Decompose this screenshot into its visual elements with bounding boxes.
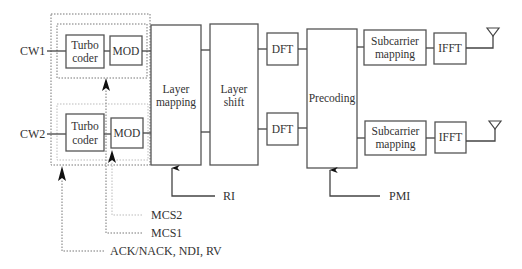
layer-shift-line2: shift	[224, 96, 245, 108]
subcarrier-mapping-1-line2: mapping	[375, 48, 415, 61]
ri-arrow	[172, 168, 215, 196]
pmi-arrow	[330, 170, 380, 196]
turbo-coder-2-line1: Turbo	[71, 120, 99, 132]
turbo-coder-2-line2: coder	[72, 134, 98, 146]
antenna-icon	[466, 28, 499, 48]
ifft-1-label: IFFT	[438, 42, 462, 54]
dft-1-label: DFT	[272, 43, 294, 55]
arrow-up-icon	[102, 78, 110, 91]
turbo-coder-1-line1: Turbo	[71, 39, 99, 51]
layer-mapping-line1: Layer	[163, 83, 190, 96]
cw2-label: CW2	[20, 127, 45, 141]
transmitter-block-diagram: CW1 CW2 Turbo coder MOD Turbo coder MOD …	[0, 0, 522, 269]
mcs2-label: MCS2	[151, 208, 182, 222]
pmi-label: PMI	[389, 189, 410, 203]
subcarrier-mapping-2-line2: mapping	[375, 138, 415, 151]
mod-1-label: MOD	[113, 45, 140, 57]
mcs1-label: MCS1	[151, 226, 182, 240]
subcarrier-mapping-2-line1: Subcarrier	[372, 125, 420, 137]
layer-mapping-line2: mapping	[156, 96, 196, 109]
ri-label: RI	[223, 189, 235, 203]
harq-feedback-label: ACK/NACK, NDI, RV	[110, 244, 222, 258]
arrow-up-icon	[108, 150, 116, 163]
harq-feedback-arrow	[62, 180, 104, 251]
subcarrier-mapping-1-line1: Subcarrier	[371, 35, 419, 47]
ifft-2-label: IFFT	[439, 131, 463, 143]
mcs2-arrow	[112, 162, 142, 215]
mcs1-arrow	[106, 90, 142, 233]
dft-2-label: DFT	[272, 123, 294, 135]
arrow-up-icon	[58, 166, 66, 181]
layer-shift-line1: Layer	[221, 83, 248, 96]
turbo-coder-1-line2: coder	[72, 52, 98, 64]
mod-2-label: MOD	[114, 127, 141, 139]
cw1-label: CW1	[20, 44, 45, 58]
precoding-label: Precoding	[309, 92, 356, 105]
layer-mapping-block	[151, 25, 201, 165]
antenna-icon	[466, 121, 501, 141]
